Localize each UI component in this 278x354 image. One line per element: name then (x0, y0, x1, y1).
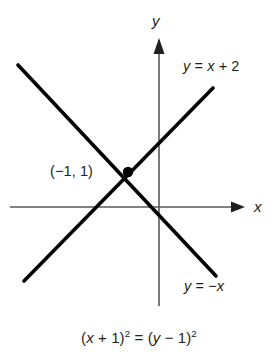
label-down-rhs-var: x (217, 278, 224, 294)
intersection-point-marker (123, 167, 133, 177)
label-up-equals: = (190, 58, 207, 74)
label-up-rhs-rest: + 2 (215, 58, 240, 74)
caption-rhs-exponent: 2 (191, 328, 197, 339)
label-line-y-equals-x-plus-2: y = x + 2 (183, 59, 240, 74)
label-line-y-equals-minus-x: y = −x (184, 279, 224, 294)
figure-caption-equation: (x + 1)2 = (y − 1)2 (0, 330, 278, 345)
label-down-equals: = (191, 278, 208, 294)
line-y-equals-minus-x (18, 65, 216, 276)
math-figure-coordinate-plane: y x y = x + 2 y = −x (−1, 1) (x + 1)2 = … (0, 0, 278, 354)
x-axis-label: x (254, 199, 262, 214)
y-axis (154, 38, 165, 306)
x-axis (10, 202, 245, 213)
line-y-equals-x-plus-2 (24, 88, 213, 281)
caption-equals: = (130, 329, 147, 346)
label-up-rhs-var: x (207, 58, 214, 74)
intersection-point-label: (−1, 1) (50, 164, 93, 179)
caption-lhs-op: + 1) (94, 329, 125, 346)
y-axis-label: y (152, 13, 160, 28)
label-down-minus: − (208, 278, 217, 294)
caption-rhs-op: − 1) (160, 329, 191, 346)
caption-lhs-var: x (86, 329, 94, 346)
y-axis-arrowhead-icon (154, 38, 165, 54)
graph-canvas (0, 0, 278, 354)
x-axis-arrowhead-icon (231, 202, 245, 213)
